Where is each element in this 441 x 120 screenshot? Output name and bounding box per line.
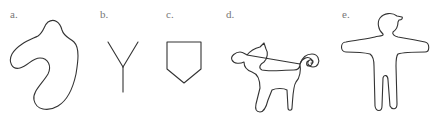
blob-shape-icon <box>10 20 78 109</box>
shape-figure: a. b. c. d. e. <box>0 0 441 120</box>
human-figure-shape-icon <box>342 14 429 111</box>
tail-spiral-icon <box>300 54 319 67</box>
shapes-canvas <box>0 0 441 120</box>
pentagon-shape-icon <box>167 42 201 83</box>
animal-shape-icon <box>232 43 313 112</box>
y-fork-shape-icon <box>108 42 138 92</box>
